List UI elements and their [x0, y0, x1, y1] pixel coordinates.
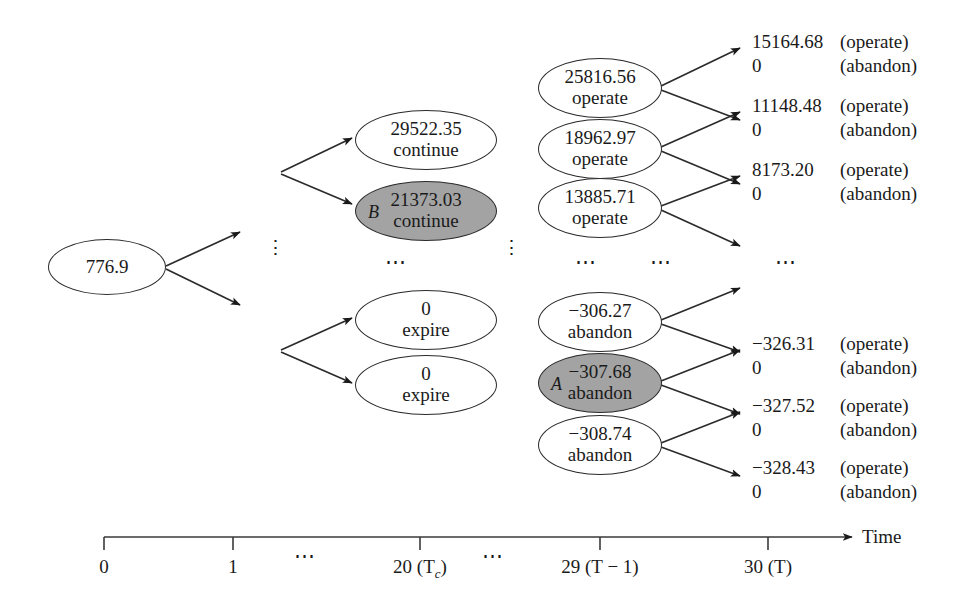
leaf-operate-value: −326.31 [752, 332, 815, 355]
axis-tick-30-label: 30 (T) [744, 556, 792, 577]
axis-tick-1: 1 [203, 556, 263, 578]
node-t1-6[interactable]: −308.74 abandon [538, 415, 662, 475]
leaf-abandon-label: (abandon) [840, 480, 917, 503]
axis-tick-30: 30 (T) [708, 556, 828, 578]
leaf-abandon-label: (abandon) [840, 418, 917, 441]
leaf-abandon-value: 0 [752, 54, 762, 77]
horizontal-ellipsis-tc: ⋯ [385, 250, 409, 275]
leaf-abandon-value: 0 [752, 356, 762, 379]
node-value: −308.74 [569, 424, 632, 445]
node-value: −306.27 [569, 301, 632, 322]
node-t1-4[interactable]: −306.27 abandon [538, 292, 662, 352]
node-tc-4[interactable]: 0 expire [355, 355, 497, 415]
leaf-operate-value: 11148.48 [752, 94, 822, 117]
node-action: operate [572, 149, 628, 170]
leaf-operate-label: (operate) [840, 94, 909, 117]
horizontal-ellipsis-t1: ⋯ [575, 250, 599, 275]
node-value: 18962.97 [564, 128, 635, 149]
node-action: abandon [568, 322, 632, 343]
node-tc-1[interactable]: 29522.35 continue [355, 110, 497, 170]
leaf-operate-value: 15164.68 [752, 30, 823, 53]
node-value: 25816.56 [564, 67, 635, 88]
axis-tick-0: 0 [74, 556, 134, 578]
leaf-operate-label: (operate) [840, 394, 909, 417]
leaf-abandon-value: 0 [752, 480, 762, 503]
node-value: 0 [421, 299, 431, 320]
axis-tick-29: 29 (T − 1) [528, 556, 672, 578]
node-t1-2[interactable]: 18962.97 operate [538, 119, 662, 179]
axis-gap-ellipsis-1: ⋯ [294, 544, 318, 569]
leaf-operate-value: −327.52 [752, 394, 815, 417]
leaf-abandon-label: (abandon) [840, 118, 917, 141]
axis-title-time: Time [862, 526, 901, 548]
node-t1-5-A[interactable]: A −307.68 abandon [538, 353, 662, 413]
axis-tick-1-label: 1 [228, 556, 238, 577]
leaf-operate-label: (operate) [840, 30, 909, 53]
node-action: expire [402, 385, 449, 406]
time-axis-line [104, 537, 852, 550]
node-value: 776.9 [86, 257, 129, 278]
node-action: continue [393, 140, 458, 161]
leaf-operate-label: (operate) [840, 158, 909, 181]
node-action: continue [393, 211, 458, 232]
node-root[interactable]: 776.9 [48, 239, 166, 295]
axis-tick-29-label: 29 (T − 1) [561, 556, 638, 577]
node-value: 13885.71 [564, 187, 635, 208]
leaf-abandon-value: 0 [752, 418, 762, 441]
node-tag-A: A [551, 375, 562, 394]
horizontal-ellipsis-leaf: ⋯ [775, 250, 799, 275]
node-tc-3[interactable]: 0 expire [355, 290, 497, 350]
leaf-abandon-value: 0 [752, 118, 762, 141]
node-value: 21373.03 [390, 190, 461, 211]
node-t1-1[interactable]: 25816.56 operate [538, 58, 662, 118]
node-action: abandon [568, 445, 632, 466]
node-action: operate [572, 88, 628, 109]
leaf-abandon-label: (abandon) [840, 182, 917, 205]
leaf-operate-value: 8173.20 [752, 158, 814, 181]
axis-tick-20-label: 20 (Tc) [393, 556, 447, 577]
node-value: 0 [421, 364, 431, 385]
node-value: 29522.35 [390, 119, 461, 140]
node-value: −307.68 [569, 362, 632, 383]
leaf-abandon-value: 0 [752, 182, 762, 205]
node-action: expire [402, 320, 449, 341]
node-tag-B: B [368, 203, 379, 222]
node-action: operate [572, 208, 628, 229]
leaf-operate-label: (operate) [840, 456, 909, 479]
axis-tick-0-label: 0 [99, 556, 109, 577]
leaf-operate-label: (operate) [840, 332, 909, 355]
decision-tree-figure: 776.9 29522.35 continue B 21373.03 conti… [0, 0, 961, 610]
node-action: abandon [568, 383, 632, 404]
leaf-abandon-label: (abandon) [840, 356, 917, 379]
axis-gap-ellipsis-2: ⋯ [482, 544, 506, 569]
leaf-abandon-label: (abandon) [840, 54, 917, 77]
vertical-ellipsis-stage1: ⋮ [266, 243, 280, 252]
leaf-operate-value: −328.43 [752, 456, 815, 479]
node-tc-2-B[interactable]: B 21373.03 continue [355, 181, 497, 241]
horizontal-ellipsis-mid: ⋯ [650, 250, 674, 275]
vertical-ellipsis-stage2: ⋮ [502, 243, 516, 252]
axis-tick-20: 20 (Tc) [362, 556, 478, 582]
node-t1-3[interactable]: 13885.71 operate [538, 178, 662, 238]
